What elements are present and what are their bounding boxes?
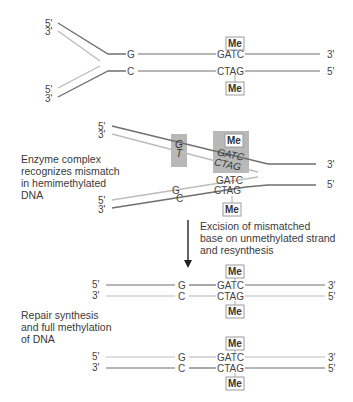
- stage2-methyl-enzyme: Me: [227, 135, 241, 146]
- stage1-base-g: G: [127, 49, 135, 60]
- stage2-end-right-3prime: 3': [327, 159, 335, 170]
- stage4-methyl-top: Me: [228, 338, 242, 349]
- label-line: base on unmethylated strand: [200, 232, 335, 244]
- stage2-methyl-lower: Me: [225, 204, 239, 215]
- stage4-base-c: C: [178, 363, 185, 374]
- stage1-methyl-bottom: Me: [228, 83, 242, 94]
- label-line: and resynthesis: [200, 244, 335, 256]
- stage3-end-right-5prime: 5': [328, 291, 336, 302]
- stage4-base-g: G: [178, 352, 186, 363]
- stage2-end-3prime-bottom: 3': [98, 204, 106, 215]
- stage3-end-3prime: 3': [92, 290, 100, 301]
- stage2-lower-base-c: C: [176, 193, 183, 204]
- stage2-enzyme-complex: 5' 3' 5' 3' 3' 5' G T Me GATC CTAG G C G…: [98, 121, 335, 216]
- label-line: in hemimethylated: [21, 177, 120, 189]
- stage2-lower-site-ctag: CTAG: [214, 185, 241, 196]
- label-line: of DNA: [21, 333, 111, 345]
- stage4-end-5prime: 5': [92, 351, 100, 362]
- stage3-site-ctag: CTAG: [217, 291, 244, 302]
- stage3-end-right-3prime: 3': [328, 280, 336, 291]
- stage1-site-gatc: GATC: [217, 49, 244, 60]
- stage3-resynthesized-dna: Me 5' 3' G C GATC CTAG 3' 5' Me: [92, 265, 336, 318]
- stage1-base-c: C: [127, 66, 134, 77]
- label-line: recognizes mismatch: [21, 165, 120, 177]
- stage1-parent-strand-bottom: [58, 71, 126, 97]
- stage1-methyl-top: Me: [228, 38, 242, 49]
- label-line: and full methylation: [21, 321, 111, 333]
- stage1-end-3prime-bottom: 3': [45, 93, 53, 104]
- stage1-end-right-5prime: 5': [327, 66, 335, 77]
- stage4-fully-methylated-dna: Me 5' 3' G C GATC CTAG 3' 5' Me: [92, 337, 336, 390]
- stage2-end-right-5prime: 5': [327, 179, 335, 190]
- stage1-replication-fork: 5' 3' 5' 3' G C GATC CTAG 3' 5' Me Me: [45, 18, 335, 104]
- repair-synthesis-label: Repair synthesis and full methylation of…: [21, 309, 111, 345]
- excision-label: Excision of mismatched base on unmethyla…: [200, 220, 335, 256]
- stage3-end-5prime: 5': [92, 279, 100, 290]
- stage3-base-g: G: [178, 280, 186, 291]
- stage3-methyl-bottom: Me: [228, 306, 242, 317]
- stage4-site-gatc: GATC: [217, 352, 244, 363]
- stage3-base-c: C: [178, 291, 185, 302]
- stage2-end-3prime-top: 3': [98, 129, 106, 140]
- stage4-end-right-5prime: 5': [328, 363, 336, 374]
- stage3-methyl-top: Me: [228, 266, 242, 277]
- down-arrow-icon: [184, 260, 192, 268]
- label-line: DNA: [21, 189, 120, 201]
- stage4-end-3prime: 3': [92, 362, 100, 373]
- stage4-end-right-3prime: 3': [328, 352, 336, 363]
- stage4-methyl-bottom: Me: [228, 378, 242, 389]
- stage1-end-right-3prime: 3': [327, 49, 335, 60]
- enzyme-complex-label: Enzyme complex recognizes mismatch in he…: [21, 153, 120, 201]
- stage3-site-gatc: GATC: [217, 280, 244, 291]
- stage1-daughter-strand-bottom: [58, 66, 100, 88]
- label-line: Repair synthesis: [21, 309, 111, 321]
- stage1-end-3prime-top: 3': [45, 26, 53, 37]
- label-line: Enzyme complex: [21, 153, 120, 165]
- stage1-site-ctag: CTAG: [217, 66, 244, 77]
- mismatch-base-t: T: [176, 148, 183, 159]
- label-line: Excision of mismatched: [200, 220, 335, 232]
- stage4-site-ctag: CTAG: [217, 363, 244, 374]
